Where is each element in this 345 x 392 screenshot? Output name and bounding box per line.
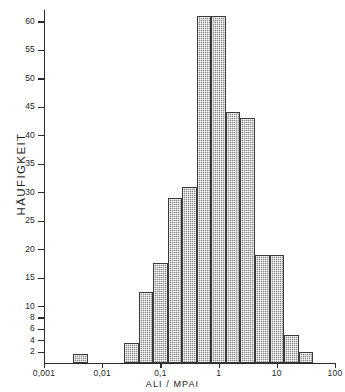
x-tick-label: 1 — [199, 368, 239, 378]
y-tick-mark — [38, 135, 44, 136]
y-tick-mark — [38, 192, 44, 193]
y-tick-mark — [38, 340, 44, 341]
y-tick-label: 10 — [5, 302, 35, 310]
x-tick-label: 0,1 — [140, 368, 180, 378]
histogram-bar — [270, 255, 285, 363]
histogram-bar — [153, 263, 168, 363]
y-tick-mark — [38, 306, 44, 307]
histogram-bar — [255, 255, 270, 363]
y-tick-label: 60 — [5, 17, 35, 25]
x-axis-title: ALI / MPAI — [0, 379, 345, 389]
y-tick-mark — [38, 21, 44, 22]
y-tick-label: 8 — [5, 313, 35, 321]
y-axis-title: HÄUFIGKEIT — [15, 109, 27, 239]
histogram-bar — [240, 118, 255, 363]
y-tick-mark — [38, 50, 44, 51]
histogram-bar — [168, 198, 183, 363]
histogram-bar — [226, 112, 241, 363]
x-tick-label: 0,01 — [82, 368, 122, 378]
y-tick-mark — [38, 78, 44, 79]
y-tick-label: 50 — [5, 74, 35, 82]
histogram-bar — [284, 335, 299, 363]
y-tick-mark — [38, 329, 44, 330]
histogram-bar — [299, 352, 314, 363]
y-tick-label: 55 — [5, 45, 35, 53]
histogram-bar — [124, 343, 139, 363]
histogram-bar — [182, 187, 197, 364]
x-tick-label: 0,001 — [24, 368, 64, 378]
y-tick-mark — [38, 221, 44, 222]
x-tick-label: 100 — [315, 368, 345, 378]
y-tick-label: 20 — [5, 245, 35, 253]
y-tick-label: 15 — [5, 273, 35, 281]
y-tick-mark — [38, 352, 44, 353]
histogram-bar — [139, 292, 154, 363]
histogram-bar — [197, 16, 212, 363]
y-tick-label: 6 — [5, 324, 35, 332]
histogram-chart: 24681015202530354045505560 0,0010,010,11… — [0, 0, 345, 392]
y-tick-mark — [38, 249, 44, 250]
y-tick-mark — [38, 317, 44, 318]
x-tick-label: 10 — [257, 368, 297, 378]
histogram-bars — [44, 8, 336, 363]
y-tick-mark — [38, 278, 44, 279]
histogram-bar — [73, 354, 88, 363]
y-tick-mark — [38, 107, 44, 108]
y-tick-label: 2 — [5, 347, 35, 355]
y-tick-mark — [38, 164, 44, 165]
histogram-bar — [211, 16, 226, 363]
y-tick-label: 4 — [5, 336, 35, 344]
